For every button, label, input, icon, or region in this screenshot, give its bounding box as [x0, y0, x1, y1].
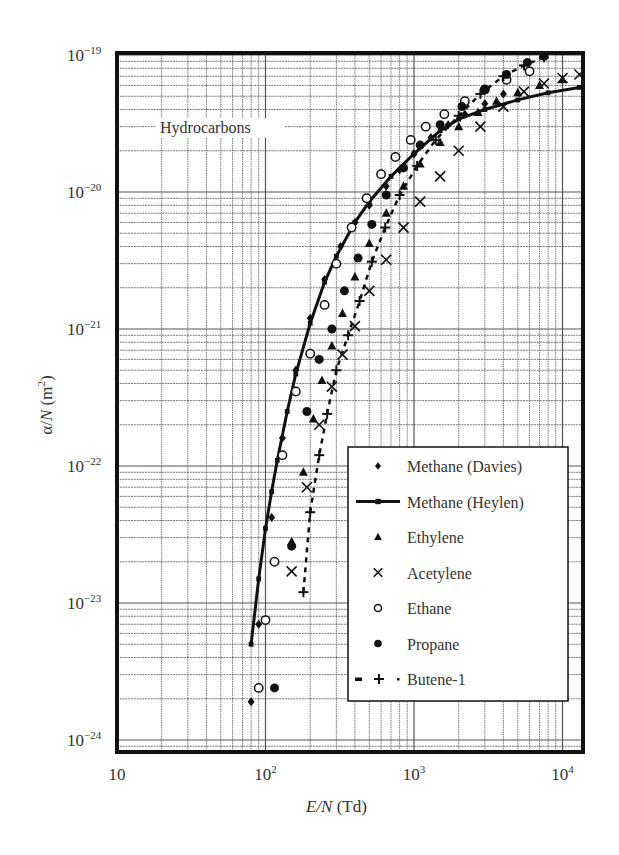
filled-circle-marker [374, 640, 382, 648]
square-marker [375, 499, 380, 504]
filled-circle-marker [270, 683, 279, 692]
filled-circle-marker [302, 407, 311, 416]
open-circle-marker [306, 350, 314, 358]
legend-dot [397, 678, 400, 681]
diamond-marker [500, 89, 507, 98]
x-marker [519, 87, 529, 97]
filled-circle-marker [367, 220, 376, 229]
plus-marker [380, 223, 390, 233]
legend-label: Ethane [407, 600, 451, 617]
open-circle-marker [377, 170, 385, 178]
filled-circle-marker [327, 325, 336, 334]
legend-label: Acetylene [407, 565, 472, 583]
open-circle-marker [422, 122, 430, 130]
x-marker [435, 171, 445, 181]
open-circle-marker [374, 604, 381, 611]
open-circle-marker [332, 259, 340, 267]
triangle-marker [350, 272, 359, 281]
y-tick-label: 10−21 [67, 318, 101, 339]
x-marker [364, 286, 374, 296]
plus-marker [314, 450, 324, 460]
plus-marker [305, 507, 315, 517]
plus-marker [298, 587, 308, 597]
filled-circle-marker [354, 253, 363, 262]
y-tick-label: 10−24 [67, 729, 102, 750]
square-marker [293, 372, 298, 377]
chart: Hydrocarbons Methane (Davies)Methane (He… [0, 0, 619, 855]
legend-label: Ethylene [407, 529, 464, 547]
open-circle-marker [270, 558, 278, 566]
filled-circle-marker [287, 542, 296, 551]
square-marker [256, 576, 261, 581]
square-marker [263, 526, 268, 531]
filled-circle-marker [399, 163, 408, 172]
open-circle-marker [525, 67, 533, 75]
x-axis-title: E/N (Td) [305, 797, 367, 816]
plus-marker [331, 365, 341, 375]
filled-circle-marker [382, 191, 391, 200]
plus-marker [322, 409, 332, 419]
x-tick-label: 104 [551, 763, 574, 784]
legend-label: Methane (Heylen) [407, 494, 524, 512]
plus-marker [343, 330, 353, 340]
square-marker [482, 107, 487, 112]
x-marker [287, 566, 297, 576]
y-tick-label: 10−19 [67, 44, 102, 65]
y-tick-label: 10−22 [67, 455, 101, 476]
filled-circle-marker [457, 102, 466, 111]
triangle-marker [317, 376, 326, 385]
plus-marker [355, 296, 365, 306]
triangle-marker [454, 122, 463, 130]
y-tick-label: 10−23 [67, 592, 102, 613]
open-circle-marker [440, 110, 448, 118]
triangle-marker [365, 239, 374, 248]
x-tick-label: 10 [109, 765, 126, 784]
triangle-marker [299, 467, 308, 476]
open-circle-marker [347, 223, 355, 231]
y-tick-label: 10−20 [67, 181, 102, 202]
filled-circle-marker [340, 286, 349, 295]
legend-dash [355, 678, 362, 682]
open-circle-marker [320, 301, 328, 309]
y-axis-title: α/N (m2) [35, 375, 56, 434]
open-circle-marker [278, 451, 286, 459]
x-tick-label: 103 [403, 763, 426, 784]
square-marker [308, 321, 313, 326]
square-marker [389, 174, 394, 179]
square-marker [412, 151, 417, 156]
square-marker [515, 98, 520, 103]
annotation: Hydrocarbons [156, 118, 284, 138]
triangle-marker [382, 208, 391, 217]
y-axis-ticks: 10−1910−2010−2110−2210−2310−24 [67, 44, 102, 750]
open-circle-marker [406, 136, 414, 144]
filled-circle-marker [315, 355, 324, 364]
open-circle-marker [391, 153, 399, 161]
square-marker [546, 90, 551, 95]
legend-label: Butene-1 [407, 671, 466, 688]
square-marker [322, 280, 327, 285]
legend-label: Propane [407, 636, 459, 654]
diamond-marker [481, 99, 488, 108]
filled-circle-marker [436, 120, 445, 129]
open-circle-marker [261, 616, 269, 624]
x-tick-label: 102 [254, 763, 277, 784]
x-marker [399, 223, 409, 233]
square-marker [269, 489, 274, 494]
triangle-marker [436, 137, 445, 146]
plus-marker [367, 257, 377, 267]
square-marker [285, 409, 290, 414]
x-axis-ticks: 10102103104 [109, 763, 575, 784]
square-marker [249, 642, 254, 647]
open-circle-marker [255, 684, 263, 692]
filled-circle-marker [416, 141, 425, 150]
open-circle-marker [292, 387, 300, 395]
annotation-label: Hydrocarbons [160, 119, 251, 137]
triangle-marker [338, 308, 347, 317]
open-circle-marker [362, 194, 370, 202]
square-marker [334, 254, 339, 259]
legend: Methane (Davies)Methane (Heylen)Ethylene… [348, 447, 568, 701]
legend-label: Methane (Davies) [407, 458, 522, 476]
